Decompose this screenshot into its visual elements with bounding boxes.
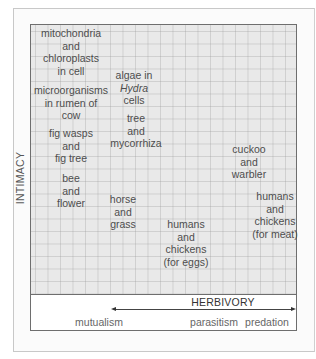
herbivory-label: HERBIVORY bbox=[191, 296, 254, 308]
label-line: cuckoo bbox=[232, 143, 266, 156]
label-line: and bbox=[164, 231, 209, 244]
label-line: bee bbox=[57, 172, 85, 185]
label-line: grass bbox=[110, 218, 136, 231]
label-line: warbler bbox=[232, 168, 266, 181]
label-line: chickens bbox=[252, 215, 298, 228]
label-mitochondria-chloroplasts: mitochondria and chloroplasts in cell bbox=[41, 27, 101, 77]
label-tree-mycorrhiza: tree and mycorrhiza bbox=[110, 112, 161, 150]
label-cuckoo-warbler: cuckoo and warbler bbox=[232, 143, 266, 181]
label-line: and bbox=[110, 125, 161, 138]
label-line: and bbox=[110, 206, 136, 219]
label-line: in rumen of bbox=[34, 97, 108, 110]
label-line: and bbox=[41, 40, 101, 53]
label-line: humans bbox=[252, 190, 298, 203]
label-line-italic: Hydra bbox=[116, 82, 153, 95]
label-algae-hydra: algae in Hydra cells bbox=[116, 69, 153, 107]
label-line: and bbox=[57, 185, 85, 198]
label-line: and bbox=[252, 203, 298, 216]
arrow-left-icon bbox=[111, 307, 116, 311]
herbivory-arrow-line bbox=[114, 309, 292, 310]
arrow-right-icon bbox=[291, 307, 296, 311]
label-line: mycorrhiza bbox=[110, 137, 161, 150]
label-line: algae in bbox=[116, 69, 153, 82]
label-line: fig wasps bbox=[49, 127, 93, 140]
label-bee-flower: bee and flower bbox=[57, 172, 85, 210]
label-line: in cell bbox=[41, 65, 101, 78]
label-line: (for meat) bbox=[252, 228, 298, 241]
label-line: cow bbox=[34, 109, 108, 122]
label-line: and bbox=[49, 140, 93, 153]
label-line: cells bbox=[116, 94, 153, 107]
label-line: and bbox=[232, 156, 266, 169]
label-humans-chickens-meat: humans and chickens (for meat) bbox=[252, 190, 298, 240]
label-line: tree bbox=[110, 112, 161, 125]
x-label-predation: predation bbox=[245, 316, 289, 328]
label-line: fig tree bbox=[49, 152, 93, 165]
label-line: horse bbox=[110, 193, 136, 206]
label-line: chickens bbox=[164, 243, 209, 256]
label-microorganisms-rumen: microorganisms in rumen of cow bbox=[34, 84, 108, 122]
label-humans-chickens-eggs: humans and chickens (for eggs) bbox=[164, 218, 209, 268]
label-fig-wasps-fig-tree: fig wasps and fig tree bbox=[49, 127, 93, 165]
label-line: microorganisms bbox=[34, 84, 108, 97]
label-line: humans bbox=[164, 218, 209, 231]
x-label-parasitism: parasitism bbox=[190, 316, 238, 328]
label-line: (for eggs) bbox=[164, 256, 209, 269]
label-line: flower bbox=[57, 197, 85, 210]
x-label-mutualism: mutualism bbox=[75, 316, 123, 328]
y-axis-label: INTIMACY bbox=[14, 152, 26, 205]
label-line: mitochondria bbox=[41, 27, 101, 40]
label-horse-grass: horse and grass bbox=[110, 193, 136, 231]
label-line: chloroplasts bbox=[41, 52, 101, 65]
